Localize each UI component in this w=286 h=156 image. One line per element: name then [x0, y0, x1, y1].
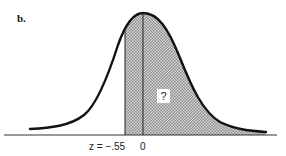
- z-value-label: z = −.55: [89, 141, 125, 152]
- normal-distribution-figure: b. ? z = −.55 0: [0, 0, 286, 156]
- panel-label: b.: [17, 12, 26, 24]
- normal-curve-diagram: [0, 0, 286, 156]
- unknown-area-label: ?: [157, 89, 170, 103]
- shaded-area: [125, 13, 266, 135]
- zero-tick-label: 0: [140, 141, 146, 152]
